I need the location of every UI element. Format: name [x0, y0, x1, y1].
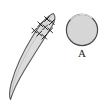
- figure-container: A: [0, 0, 104, 108]
- panel-label-a: A: [66, 48, 98, 59]
- cross-section-disc: [66, 14, 97, 45]
